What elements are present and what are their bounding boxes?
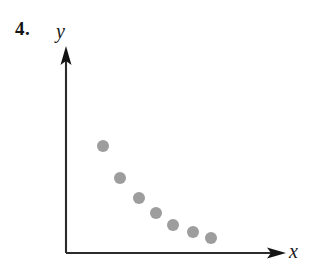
data-point xyxy=(187,226,199,238)
plot-canvas xyxy=(0,0,330,279)
data-point xyxy=(205,232,217,244)
data-point xyxy=(114,172,126,184)
data-point xyxy=(150,207,162,219)
data-point xyxy=(167,219,179,231)
scatter-plot-figure: 4. y x xyxy=(0,0,330,279)
data-point-group xyxy=(97,140,217,244)
data-point xyxy=(133,192,145,204)
data-point xyxy=(97,140,109,152)
